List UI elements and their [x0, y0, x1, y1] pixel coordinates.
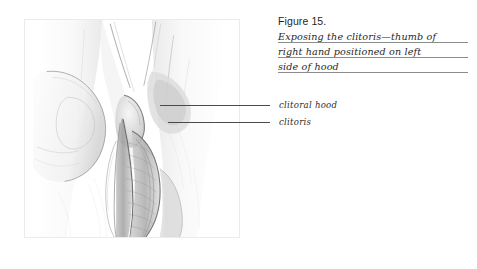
caption-line-1-text: Exposing the clitoris—thumb of [278, 31, 438, 42]
leader-line-clitoris [168, 122, 270, 123]
figure-number: Figure 15. [278, 14, 468, 28]
caption-line-2: right hand positioned on left [278, 44, 468, 59]
figure-page: clitoral hood clitoris Figure 15. Exposi… [0, 0, 477, 269]
caption-line-2-text: right hand positioned on left [278, 46, 423, 57]
callout-label-clitoral-hood: clitoral hood [279, 100, 337, 110]
callout-label-clitoris: clitoris [279, 117, 311, 127]
thumb-shape [33, 71, 106, 182]
caption-line-3-text: side of hood [278, 61, 341, 72]
illustration-panel [24, 19, 240, 238]
caption-line-3: side of hood [278, 59, 468, 74]
caption-block: Figure 15. Exposing the clitoris—thumb o… [278, 14, 468, 74]
anatomical-pencil-drawing [25, 20, 239, 237]
caption-line-1: Exposing the clitoris—thumb of [278, 29, 468, 44]
leader-line-clitoral-hood [160, 105, 270, 106]
